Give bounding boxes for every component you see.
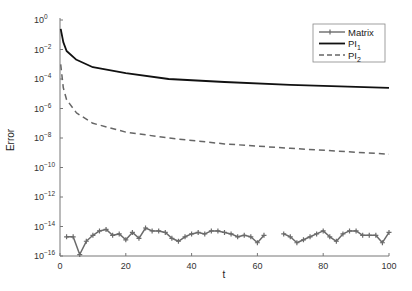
y-tick-label: 10−8: [34, 131, 52, 143]
y-tick-label: 100: [34, 13, 48, 25]
series-matrix: [64, 225, 391, 257]
x-tick-label: 100: [381, 261, 396, 271]
plus-marker-icon: [215, 228, 220, 233]
plus-marker-icon: [229, 231, 234, 236]
series-pi-2: [61, 64, 389, 154]
plus-marker-icon: [314, 231, 319, 236]
y-tick-label: 10−12: [34, 190, 55, 202]
y-tick-label: 10−10: [34, 161, 55, 173]
y-tick-label: 10−14: [34, 220, 55, 232]
plus-marker-icon: [150, 228, 155, 233]
x-tick-label: 20: [121, 261, 131, 271]
y-tick-label: 10−16: [34, 249, 55, 261]
x-tick-label: 0: [57, 261, 62, 271]
x-tick-label: 80: [318, 261, 328, 271]
plus-marker-icon: [242, 233, 247, 238]
plus-marker-icon: [202, 231, 207, 236]
legend-label: Matrix: [348, 27, 374, 38]
plus-marker-icon: [367, 233, 372, 238]
plus-marker-icon: [347, 228, 352, 233]
chart: 02040608010010010−210−410−610−810−1010−1…: [0, 0, 412, 291]
chart-svg: 02040608010010010−210−410−610−810−1010−1…: [0, 0, 412, 291]
plus-marker-icon: [189, 231, 194, 236]
plus-marker-icon: [235, 234, 240, 239]
y-tick-label: 10−4: [34, 72, 52, 84]
plus-marker-icon: [209, 228, 214, 233]
y-tick-label: 10−6: [34, 102, 52, 114]
y-tick-label: 10−2: [34, 43, 52, 55]
plus-marker-icon: [196, 230, 201, 235]
x-tick-label: 60: [252, 261, 262, 271]
series-line: [61, 64, 389, 154]
plus-marker-icon: [64, 234, 69, 239]
plus-marker-icon: [222, 230, 227, 235]
x-axis-label: t: [223, 269, 226, 280]
plus-marker-icon: [71, 234, 76, 239]
legend: MatrixPI1PI2: [313, 24, 385, 63]
series-layer: [61, 29, 392, 257]
plus-marker-icon: [308, 234, 313, 239]
plus-marker-icon: [156, 228, 161, 233]
x-tick-label: 40: [187, 261, 197, 271]
plus-marker-icon: [301, 237, 306, 242]
plus-marker-icon: [281, 231, 286, 236]
y-axis-label: Error: [5, 128, 16, 151]
